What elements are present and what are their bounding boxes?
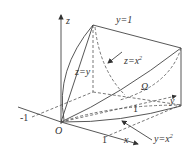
z-x2-pointer: [108, 52, 122, 63]
y-axis: [61, 96, 176, 122]
top-plane-label: y=1: [115, 14, 132, 25]
z-x2-label: z=x2: [123, 55, 142, 66]
diagram-canvas: z y=1 z=x2 z=y Ω y 1 -1 O 1 x y=x2: [0, 0, 193, 158]
origin-label: O: [55, 125, 62, 136]
x-one-tick: 1: [102, 134, 107, 145]
y-x2-label: y=x2: [153, 133, 173, 144]
y-one-tick: 1: [133, 103, 138, 114]
z-axis-label: z: [65, 15, 70, 26]
region-omega-label: Ω: [141, 81, 148, 92]
z-y-label: z=y: [74, 66, 91, 77]
y-axis-label: y: [169, 95, 175, 106]
x-neg-one-tick: -1: [20, 112, 28, 123]
x-axis-label: x: [123, 134, 129, 145]
top-edge: [93, 25, 181, 48]
